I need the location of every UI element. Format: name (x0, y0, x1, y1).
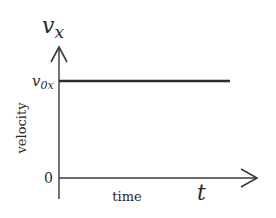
y-tick-v0x: v0x (32, 72, 54, 92)
x-axis-title: time (112, 189, 142, 204)
velocity-time-chart: vx v0x 0 velocity time t (0, 0, 276, 218)
x-axis-symbol: t (197, 180, 206, 205)
y-axis-title: velocity (14, 102, 29, 155)
y-axis-symbol: vx (42, 13, 64, 42)
y-tick-zero: 0 (44, 170, 53, 186)
